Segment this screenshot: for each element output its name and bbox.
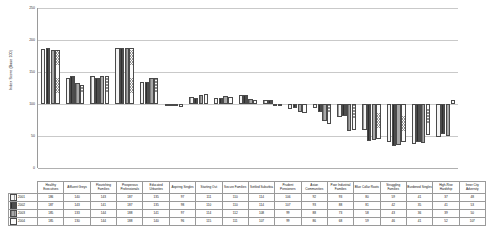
table-cell: 73	[327, 210, 353, 218]
bar	[228, 97, 232, 104]
table-column-header: High-Rise Hardship	[433, 182, 459, 194]
bar	[273, 104, 277, 106]
y-axis-tick-label: 200	[29, 38, 35, 42]
table-cell: 97	[169, 194, 195, 202]
bar-group	[310, 8, 335, 168]
table-cell: 187	[117, 194, 143, 202]
table-row: 2003185133144188141971141121089988735843…	[9, 210, 486, 218]
bar	[149, 78, 153, 104]
bar	[239, 95, 243, 104]
bar	[120, 48, 124, 104]
table-cell: 97	[169, 210, 195, 218]
bar	[426, 104, 430, 135]
table-cell: 48	[459, 194, 485, 202]
table-row-header: 2002	[9, 202, 38, 210]
table-cell: 114	[196, 210, 222, 218]
table-cell: 98	[169, 202, 195, 210]
legend-label: 2002	[18, 203, 25, 207]
bar	[214, 98, 218, 104]
table-cell: 110	[196, 202, 222, 210]
table-cell: 115	[196, 218, 222, 226]
bar-group	[236, 8, 261, 168]
y-axis-tick-label: 250	[29, 6, 35, 10]
table-cell: 88	[327, 202, 353, 210]
table-cell: 88	[301, 210, 327, 218]
table-cell: 37	[433, 194, 459, 202]
table-cell: 140	[64, 194, 90, 202]
table-cell: 41	[406, 218, 432, 226]
bar	[313, 104, 317, 108]
bar	[253, 100, 257, 104]
bar	[372, 104, 376, 140]
table-column-header: Educated Urbanites	[143, 182, 169, 194]
bar	[298, 104, 302, 112]
table-cell: 58	[354, 210, 380, 218]
bar	[204, 94, 208, 104]
bar	[129, 48, 133, 104]
bar	[347, 104, 351, 131]
bar	[302, 104, 306, 113]
table-cell: 43	[380, 210, 406, 218]
bar	[392, 104, 396, 146]
bar	[125, 48, 129, 104]
table-column-header: Prosperous Professionals	[117, 182, 143, 194]
table-cell: 93	[327, 194, 353, 202]
bar	[55, 50, 59, 104]
bar	[51, 50, 55, 104]
bar	[248, 99, 252, 104]
table-cell: 93	[301, 202, 327, 210]
bar	[199, 95, 203, 104]
bar	[154, 78, 158, 104]
table-cell: 135	[143, 202, 169, 210]
table-cell: 86	[301, 218, 327, 226]
table-column-header: Flourishing Families	[90, 182, 116, 194]
table-cell: 41	[433, 202, 459, 210]
bar	[352, 104, 356, 130]
bar	[362, 104, 366, 130]
bar	[174, 104, 178, 106]
table-cell: 110	[222, 202, 248, 210]
bar-group	[38, 8, 63, 168]
bar	[46, 48, 50, 104]
table-cell: 50	[459, 210, 485, 218]
legend-swatch	[10, 210, 18, 216]
bar	[189, 97, 193, 104]
bar	[451, 100, 455, 104]
table-cell: 35	[406, 202, 432, 210]
table-column-header: Aspiring Singles	[169, 182, 195, 194]
table-cell: 135	[143, 194, 169, 202]
table-cell: 53	[459, 202, 485, 210]
bar-group	[137, 8, 162, 168]
bar	[318, 104, 322, 112]
table-cell: 80	[354, 194, 380, 202]
bar	[70, 76, 74, 104]
bar	[169, 104, 173, 106]
legend-label: 2004	[18, 219, 25, 223]
table-cell: 130	[64, 218, 90, 226]
bar	[165, 104, 169, 106]
table-cell: 185	[38, 210, 64, 218]
bar-group	[87, 8, 112, 168]
table-column-header: Struggling Families	[380, 182, 406, 194]
table-cell: 41	[406, 194, 432, 202]
table-cell: 39	[433, 210, 459, 218]
table-cell: 140	[143, 218, 169, 226]
table-cell: 133	[64, 210, 90, 218]
table-column-header: Blue Collar Roots	[354, 182, 380, 194]
bar	[401, 104, 405, 142]
bar	[66, 78, 70, 104]
legend-swatch	[10, 194, 18, 200]
y-axis-tick-label: 150	[29, 70, 35, 74]
table-cell: 107	[275, 202, 301, 210]
table-cell: 107	[459, 218, 485, 226]
bar	[421, 104, 425, 143]
table-column-header: Prudent Pensioners	[275, 182, 301, 194]
bar	[441, 104, 445, 134]
table-cell: 59	[380, 194, 406, 202]
y-axis-ticks: 250200150100500	[18, 8, 36, 168]
bar	[95, 78, 99, 104]
table-column-header: Asian Communities	[301, 182, 327, 194]
bar-group	[211, 8, 236, 168]
table-cell: 99	[275, 218, 301, 226]
